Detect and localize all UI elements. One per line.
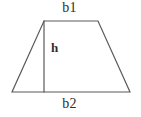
top-base-label: b1 <box>0 1 140 15</box>
height-label: h <box>51 41 58 54</box>
trapezoid-diagram: b1 h b2 <box>0 0 141 117</box>
bottom-base-label: b2 <box>0 97 140 111</box>
trapezoid-outline <box>12 21 130 92</box>
